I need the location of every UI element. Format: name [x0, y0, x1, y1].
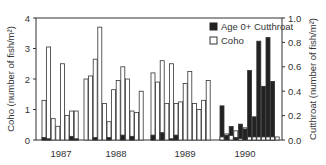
coho-bar: [56, 126, 60, 140]
year-label-1989: 1989: [174, 148, 195, 159]
ytick-2: 2: [25, 74, 30, 85]
legend-label-coho: Coho: [221, 35, 244, 46]
ytick-right-2: 0.4: [288, 86, 301, 97]
coho-bar: [130, 111, 134, 140]
coho-bar: [220, 137, 224, 140]
coho-bar: [202, 100, 206, 140]
cutthroat-bar: [70, 136, 74, 140]
cutthroat-bar: [42, 138, 46, 140]
coho-bar: [252, 137, 256, 140]
coho-bar: [102, 103, 106, 140]
coho-bar: [89, 76, 93, 140]
ytick-0: 0: [25, 135, 30, 146]
y-axis-label-right: Cutthroat (number of fish/m²): [307, 18, 318, 140]
coho-bar: [174, 103, 178, 140]
coho-bar: [197, 110, 201, 141]
ytick-right-0: 0.0: [288, 135, 301, 146]
cutthroat-bar: [238, 124, 242, 140]
cutthroat-bar: [220, 106, 224, 140]
coho-bar: [229, 135, 233, 140]
coho-bar: [116, 81, 120, 140]
year-label-1990: 1990: [234, 148, 255, 159]
cutthroat-bar: [130, 136, 134, 140]
coho-bar: [179, 102, 183, 140]
coho-bar: [261, 137, 265, 140]
x-axis-labels: 1987 1988 1989 1990: [50, 148, 255, 159]
cutthroat-bar: [160, 133, 164, 140]
chart: 0 1 2 3 4 Coho (number of fish/m²) 0.0 0…: [0, 0, 326, 165]
year-label-1988: 1988: [105, 148, 126, 159]
ytick-1: 1: [25, 104, 30, 115]
cutthroat-bar: [74, 139, 78, 140]
coho-bar: [65, 116, 69, 140]
coho-bar: [156, 82, 160, 140]
cutthroat-bar: [234, 138, 238, 140]
year-label-1987: 1987: [50, 148, 71, 159]
coho-bar: [238, 138, 242, 140]
coho-bar: [139, 91, 143, 140]
cutthroat-bar: [121, 135, 125, 140]
coho-bar: [169, 64, 173, 140]
legend-swatch-coho: [210, 37, 217, 44]
coho-bar: [275, 137, 279, 140]
cutthroat-bar: [243, 129, 247, 140]
cutthroat-bar: [271, 81, 275, 140]
coho-bar: [165, 103, 169, 140]
ytick-right-1: 0.2: [288, 110, 301, 121]
coho-bar: [135, 113, 139, 140]
ytick-right-3: 0.6: [288, 61, 301, 72]
ytick-right-4: 0.8: [288, 37, 301, 48]
coho-bar: [248, 137, 252, 140]
cutthroat-bar: [47, 139, 51, 140]
cutthroat-bar: [266, 38, 270, 140]
coho-bar: [84, 79, 88, 140]
ytick-4: 4: [25, 13, 30, 24]
coho-bar: [151, 73, 155, 140]
coho-bar: [192, 103, 196, 140]
legend-swatch-cutthroat: [210, 23, 217, 30]
coho-bar: [121, 67, 125, 140]
coho-bar: [257, 137, 261, 140]
left-axis: 0 1 2 3 4: [25, 13, 36, 146]
cutthroat-bar: [151, 135, 155, 140]
coho-bar: [188, 71, 192, 140]
cutthroat-bar: [248, 70, 252, 140]
coho-bar: [60, 64, 64, 140]
y-axis-label-left: Coho (number of fish/m²): [5, 26, 16, 132]
cutthroat-bar: [107, 138, 111, 140]
cutthroat-bar: [169, 139, 173, 140]
coho-bar: [47, 47, 51, 140]
cutthroat-bar: [93, 138, 97, 140]
coho-bar: [160, 61, 164, 140]
coho-bar: [74, 111, 78, 140]
coho-bar: [93, 59, 97, 140]
right-axis: 0.0 0.2 0.4 0.6 0.8 1.0: [282, 13, 301, 146]
cutthroat-bar: [257, 41, 261, 140]
coho-bar: [183, 84, 187, 140]
coho-bar: [98, 27, 102, 140]
cutthroat-bar: [174, 135, 178, 140]
coho-bar: [112, 90, 116, 140]
coho-bar: [125, 79, 129, 140]
cutthroat-bar: [225, 135, 229, 140]
coho-bar: [51, 119, 55, 140]
coho-bar: [206, 81, 210, 140]
coho-bar: [42, 100, 46, 140]
cutthroat-bar: [252, 117, 256, 140]
coho-bar: [266, 137, 270, 140]
cutthroat-bar: [261, 86, 265, 140]
coho-bar: [271, 137, 275, 140]
legend-label-cutthroat: Age 0+ Cutthroat: [221, 21, 293, 32]
legend: Age 0+ Cutthroat Coho: [210, 21, 293, 46]
ytick-3: 3: [25, 43, 30, 54]
coho-bar: [70, 111, 74, 140]
